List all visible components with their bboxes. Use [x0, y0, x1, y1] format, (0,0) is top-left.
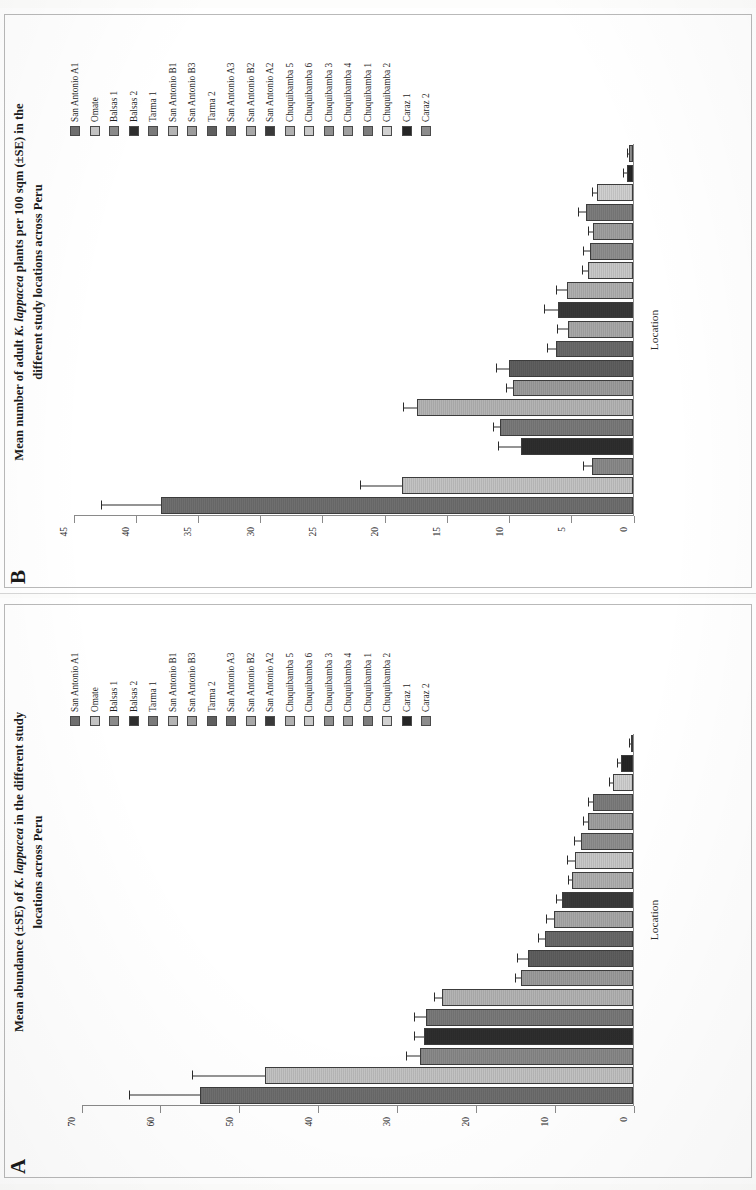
- bar: [426, 1009, 633, 1026]
- bar: [554, 911, 634, 928]
- y-tick: [571, 516, 572, 523]
- error-cap-top: [493, 422, 494, 431]
- bar-cell: [74, 300, 633, 320]
- error-cap-top: [568, 875, 569, 884]
- legend-swatch: [168, 126, 178, 136]
- legend-item: Balsas 2: [125, 18, 144, 136]
- bar: [588, 813, 633, 830]
- legend-item: Chuquibamba 4: [339, 18, 358, 136]
- panel-a-bars: [82, 734, 633, 1105]
- panel-b-title-species: K. lappacea: [12, 276, 26, 337]
- y-tick-label: 45: [59, 527, 69, 537]
- bar-cell: [82, 949, 633, 969]
- panel-a-x-axis-label: Location: [648, 734, 660, 1106]
- error-cap-top: [547, 344, 548, 353]
- y-tick: [136, 516, 137, 523]
- legend-item: Chuquibamba 6: [300, 18, 319, 136]
- legend-label: Caraz 2: [421, 93, 431, 122]
- bar-cell: [74, 222, 633, 242]
- bar-cell: [74, 417, 633, 437]
- legend-item: Tarma 1: [144, 608, 163, 726]
- bar: [521, 970, 633, 987]
- legend-label: San Antonio B3: [187, 63, 197, 122]
- bar-cell: [74, 320, 633, 340]
- y-tick-label: 20: [461, 1117, 471, 1127]
- error-cap-top: [414, 1012, 415, 1021]
- legend-item: Omate: [86, 608, 105, 726]
- legend-swatch: [343, 126, 353, 136]
- bar: [588, 262, 633, 279]
- legend-swatch: [246, 716, 256, 726]
- error-cap-top: [129, 1090, 130, 1099]
- bar-cell: [74, 261, 633, 281]
- legend-swatch: [265, 716, 275, 726]
- legend-item: Chuquibamba 3: [320, 608, 339, 726]
- bar: [509, 360, 633, 377]
- legend-swatch: [207, 126, 217, 136]
- figure-page: B Mean number of adult K. lappacea plant…: [0, 0, 756, 1190]
- bar: [592, 458, 633, 475]
- panel-b-title-line2: different study locations across Peru: [31, 184, 45, 379]
- legend-swatch: [285, 126, 295, 136]
- y-tick: [198, 516, 199, 523]
- y-tick: [82, 1106, 83, 1113]
- bar-cell: [82, 910, 633, 930]
- error-cap-top: [588, 227, 589, 236]
- panel-a-y-axis: [82, 1105, 634, 1106]
- legend-swatch: [226, 126, 236, 136]
- panel-a-title-line2: locations across Peru: [31, 815, 45, 928]
- legend-label: San Antonio A1: [70, 653, 80, 712]
- legend-label: San Antonio A2: [265, 63, 275, 122]
- legend-label: San Antonio B2: [246, 653, 256, 712]
- error-cap-top: [546, 914, 547, 923]
- legend-label: Chuquibamba 4: [343, 653, 353, 712]
- panel-b-title: Mean number of adult K. lappacea plants …: [10, 24, 48, 540]
- y-tick: [447, 516, 448, 523]
- legend-label: San Antonio A1: [70, 63, 80, 122]
- legend-item: Tarma 2: [203, 608, 222, 726]
- panel-a-container: A Mean abundance (±SE) of K. lappacea in…: [0, 598, 756, 1184]
- legend-label: Caraz 1: [402, 93, 412, 122]
- bar-cell: [82, 1007, 633, 1027]
- legend-item: Chuquibamba 2: [378, 608, 397, 726]
- bar-cell: [82, 753, 633, 773]
- legend-item: Chuquibamba 4: [339, 608, 358, 726]
- y-tick: [74, 516, 75, 523]
- bar-cell: [82, 793, 633, 813]
- y-tick: [634, 1106, 635, 1113]
- legend-swatch: [129, 126, 139, 136]
- panel-b-letter: B: [6, 569, 31, 584]
- bar: [161, 497, 633, 514]
- legend-swatch: [109, 126, 119, 136]
- legend-swatch: [226, 716, 236, 726]
- legend-item: Chuquibamba 1: [359, 18, 378, 136]
- bar: [265, 1067, 633, 1084]
- legend-item: Chuquibamba 6: [300, 608, 319, 726]
- error-cap-top: [515, 973, 516, 982]
- y-tick: [476, 1106, 477, 1113]
- error-cap-top: [627, 149, 628, 158]
- legend-item: San Antonio A3: [222, 608, 241, 726]
- legend-item: San Antonio B3: [183, 608, 202, 726]
- legend-item: Caraz 2: [417, 608, 436, 726]
- error-cap-top: [101, 500, 102, 509]
- legend-item: Caraz 1: [398, 608, 417, 726]
- legend-item: Balsas 1: [105, 18, 124, 136]
- bar-cell: [82, 1066, 633, 1086]
- error-cap-top: [583, 817, 584, 826]
- legend-swatch: [304, 126, 314, 136]
- y-tick-label: 40: [121, 527, 131, 537]
- legend-label: San Antonio B1: [168, 653, 178, 712]
- y-tick-label: 70: [67, 1117, 77, 1127]
- legend-swatch: [246, 126, 256, 136]
- y-tick: [160, 1106, 161, 1113]
- bar-cell: [82, 1085, 633, 1105]
- y-tick-label: 50: [225, 1117, 235, 1127]
- bar-cell: [82, 1027, 633, 1047]
- legend-label: Chuquibamba 2: [382, 63, 392, 122]
- legend-label: Omate: [90, 687, 100, 712]
- y-tick-label: 10: [540, 1117, 550, 1127]
- legend-swatch: [148, 126, 158, 136]
- bar: [556, 341, 633, 358]
- bar-cell: [74, 398, 633, 418]
